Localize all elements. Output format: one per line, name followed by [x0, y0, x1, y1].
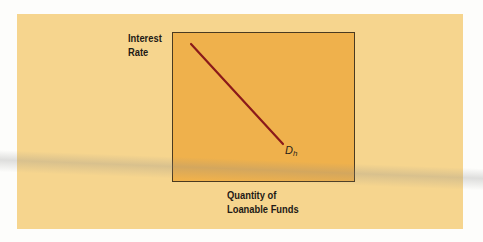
plot-area — [172, 32, 355, 182]
x-axis-label-line2: Loanable Funds — [227, 202, 299, 216]
y-axis-label: Interest Rate — [128, 31, 162, 59]
curve-label-main: D — [285, 144, 293, 156]
y-axis-label-line1: Interest — [128, 31, 162, 45]
curve-label-subscript: h — [293, 149, 297, 158]
figure-page: ​ Interest Rate Quantity of Loanable Fun… — [0, 0, 483, 242]
x-axis-label-line1: Quantity of — [227, 188, 299, 202]
y-axis-label-line2: Rate — [128, 45, 162, 59]
curve-label: Dh — [285, 144, 297, 158]
x-axis-label: Quantity of Loanable Funds — [227, 188, 299, 216]
